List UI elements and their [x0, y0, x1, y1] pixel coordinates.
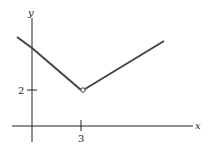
y-axis-label: y	[27, 7, 34, 18]
open-circle-hole	[81, 88, 85, 92]
x-tick-label-3: 3	[78, 133, 84, 144]
x-axis-label: x	[195, 120, 201, 131]
graph-left-segment	[17, 37, 81, 90]
chart-canvas: y x 2 3	[0, 0, 211, 157]
graph-right-segment	[85, 41, 164, 89]
y-tick-label-2: 2	[18, 85, 24, 96]
